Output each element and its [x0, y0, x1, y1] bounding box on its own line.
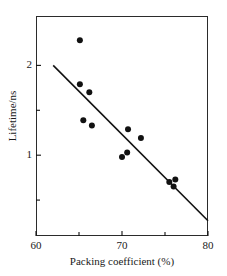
data-point — [89, 123, 95, 129]
figure-container: 60708012 Packing coefficient (%) Lifetim… — [0, 0, 227, 276]
data-point — [166, 179, 172, 185]
data-point — [77, 81, 83, 87]
x-tick-label: 70 — [110, 240, 134, 251]
data-point — [77, 37, 83, 43]
y-axis-title: Lifetime/ns — [6, 76, 18, 156]
y-tick-label: 2 — [16, 59, 32, 70]
regression-line — [53, 65, 208, 220]
y-tick-label: 1 — [16, 149, 32, 160]
x-tick-label: 80 — [196, 240, 220, 251]
data-point — [138, 135, 144, 141]
plot-canvas — [0, 0, 227, 276]
x-axis-title: Packing coefficient (%) — [36, 255, 208, 267]
data-point — [86, 89, 92, 95]
data-point — [119, 154, 125, 160]
data-point — [124, 149, 130, 155]
data-point — [80, 117, 86, 123]
data-point — [171, 184, 177, 190]
axis-ticks — [36, 65, 208, 236]
data-points — [77, 37, 178, 189]
data-point — [125, 126, 131, 132]
x-tick-label: 60 — [24, 240, 48, 251]
fit-line — [53, 65, 208, 220]
data-point — [172, 176, 178, 182]
